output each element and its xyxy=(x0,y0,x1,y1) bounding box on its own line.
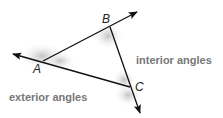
interior-angles-label: interior angles xyxy=(136,55,212,66)
interior-angle-shade-b xyxy=(92,22,124,50)
vertex-label-b: B xyxy=(102,13,110,25)
vertex-label-c: C xyxy=(135,81,144,93)
interior-angle-shade-a xyxy=(44,51,76,71)
vertex-label-a: A xyxy=(33,63,41,75)
exterior-angles-label: exterior angles xyxy=(9,92,87,103)
